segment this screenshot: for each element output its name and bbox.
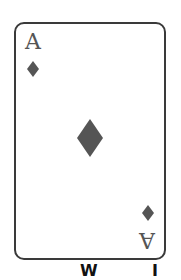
- diamond-icon: [142, 205, 154, 221]
- diamond-icon: [27, 61, 39, 77]
- rank-label-top: A: [25, 31, 41, 53]
- caption-fragment-left: W: [80, 263, 98, 279]
- rank-label-bottom: A: [139, 229, 155, 251]
- caption-fragment-right: I: [152, 263, 158, 279]
- diamond-icon: [77, 119, 103, 157]
- playing-card-ace-of-diamonds: A A: [14, 22, 166, 260]
